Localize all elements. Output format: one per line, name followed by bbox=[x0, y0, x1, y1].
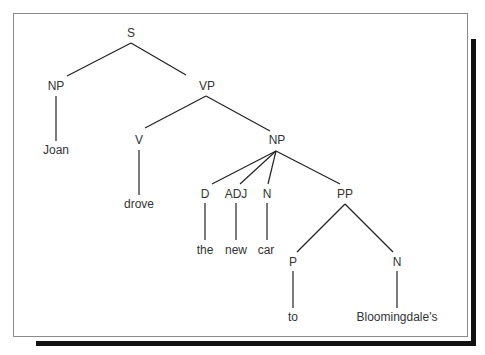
leaf-to: to bbox=[288, 311, 298, 323]
edge-pp-p bbox=[297, 204, 345, 252]
edge-np-d bbox=[212, 151, 276, 184]
node-n-pp: N bbox=[393, 256, 402, 268]
node-d: D bbox=[201, 188, 210, 200]
edge-pp-n bbox=[345, 204, 393, 252]
node-p: P bbox=[289, 256, 297, 268]
edge-vp-np bbox=[206, 96, 270, 131]
node-n: N bbox=[263, 188, 272, 200]
edge-s-vp bbox=[131, 43, 186, 75]
node-v: V bbox=[135, 134, 143, 146]
leaf-drove: drove bbox=[124, 198, 154, 210]
tree-edges bbox=[0, 0, 485, 355]
node-vp: VP bbox=[199, 80, 215, 92]
node-np-subject: NP bbox=[48, 80, 65, 92]
leaf-new: new bbox=[225, 244, 247, 256]
leaf-the: the bbox=[197, 244, 214, 256]
node-np-object: NP bbox=[269, 134, 286, 146]
leaf-bloomingdales: Bloomingdale's bbox=[356, 311, 437, 323]
edge-vp-v bbox=[145, 96, 206, 128]
node-adj: ADJ bbox=[225, 188, 248, 200]
node-pp: PP bbox=[337, 188, 353, 200]
node-s: S bbox=[127, 27, 135, 39]
edge-np-pp bbox=[276, 151, 340, 184]
edge-np-adj bbox=[240, 151, 276, 184]
edge-s-np bbox=[67, 43, 131, 76]
leaf-joan: Joan bbox=[43, 144, 69, 156]
edge-np-n bbox=[268, 151, 276, 184]
leaf-car: car bbox=[258, 244, 275, 256]
